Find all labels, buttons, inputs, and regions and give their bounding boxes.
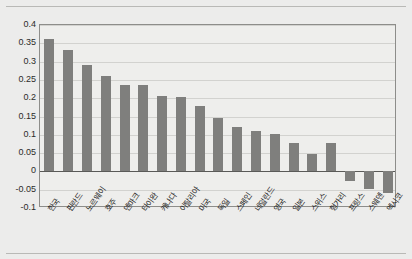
bar [270, 134, 280, 171]
bar-slot [265, 25, 284, 206]
bar-slot [378, 25, 396, 206]
bar [251, 131, 261, 171]
bar [138, 85, 148, 171]
bar [82, 65, 92, 171]
bar-slot [303, 25, 322, 206]
bar-slot [115, 25, 134, 206]
bar [326, 143, 336, 172]
bar-slot [96, 25, 115, 206]
bar-slot [341, 25, 360, 206]
y-axis-tick-label: 0.35 [0, 38, 36, 47]
plot-area [39, 24, 396, 207]
bar-slot [190, 25, 209, 206]
y-axis-tick-label: -0.1 [0, 203, 36, 212]
bar [101, 76, 111, 172]
bar-chart: 0.40.350.30.250.20.150.10.050-0.05-0.1 한… [0, 0, 412, 259]
bar-slot [153, 25, 172, 206]
y-axis-tick-label: 0 [0, 166, 36, 175]
bar-slot [247, 25, 266, 206]
y-axis-tick-label: 0.25 [0, 74, 36, 83]
y-axis-tick-label: 0.15 [0, 111, 36, 120]
x-axis: 한국핀란드노르웨이호주덴마크타이완캐나다이탈리아미국독일스페인네덜란드영국일본스… [39, 209, 396, 257]
bar [345, 171, 355, 181]
top-divider [6, 6, 406, 7]
y-axis: 0.40.350.30.250.20.150.10.050-0.05-0.1 [0, 24, 36, 207]
bar [383, 171, 393, 192]
bar-slot [78, 25, 97, 206]
y-axis-tick-label: 0.1 [0, 129, 36, 138]
y-axis-tick-label: 0.2 [0, 93, 36, 102]
bar [176, 97, 186, 171]
bar-slot [359, 25, 378, 206]
y-axis-tick-label: 0.4 [0, 20, 36, 29]
bar [232, 127, 242, 172]
bar-slot [40, 25, 59, 206]
bar [44, 39, 54, 171]
bar-slot [322, 25, 341, 206]
y-axis-tick-label: 0.05 [0, 148, 36, 157]
bar-slot [172, 25, 191, 206]
y-axis-tick-label: -0.05 [0, 184, 36, 193]
bar [120, 85, 130, 171]
bars [40, 25, 395, 206]
bar [289, 143, 299, 172]
bar [213, 118, 223, 171]
bar [63, 50, 73, 172]
bar-slot [134, 25, 153, 206]
bar [364, 171, 374, 188]
bar [307, 154, 317, 171]
bar [157, 96, 167, 171]
bar-slot [209, 25, 228, 206]
bar-slot [284, 25, 303, 206]
y-axis-tick-label: 0.3 [0, 56, 36, 65]
bar-slot [59, 25, 78, 206]
bar-slot [228, 25, 247, 206]
bar [195, 106, 205, 171]
